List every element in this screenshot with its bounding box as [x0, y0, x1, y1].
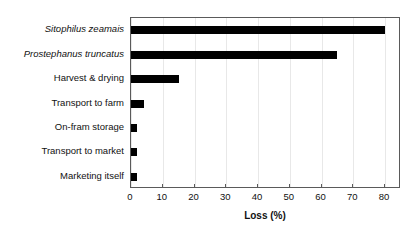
tick-mark: [162, 184, 163, 188]
bar: [131, 100, 144, 108]
tick-label: 40: [252, 191, 263, 202]
tick-label: 70: [347, 191, 358, 202]
category-label: Marketing itself: [0, 171, 124, 181]
category-label: Transport to farm: [0, 98, 124, 108]
tick-label: 60: [315, 191, 326, 202]
bar-chart: Sitophilus zeamaisProstephanus truncatus…: [0, 0, 418, 236]
x-axis-ticks: 01020304050607080: [130, 188, 400, 193]
tick-label: 10: [156, 191, 167, 202]
bar: [131, 173, 137, 181]
tick-mark: [130, 184, 131, 188]
bar-series: [131, 18, 399, 187]
plot-area: [130, 17, 400, 188]
tick-mark: [194, 184, 195, 188]
category-label: Transport to market: [0, 146, 124, 156]
category-label: On-fram storage: [0, 122, 124, 132]
category-axis-labels: Sitophilus zeamaisProstephanus truncatus…: [0, 17, 128, 188]
tick-label: 50: [284, 191, 295, 202]
category-label: Prostephanus truncatus: [0, 49, 124, 59]
tick-mark: [225, 184, 226, 188]
tick-label: 30: [220, 191, 231, 202]
tick-mark: [384, 184, 385, 188]
tick-label: 80: [379, 191, 390, 202]
category-label: Harvest & drying: [0, 73, 124, 83]
bar: [131, 124, 137, 132]
tick-label: 20: [188, 191, 199, 202]
category-label: Sitophilus zeamais: [0, 24, 124, 34]
bar: [131, 148, 137, 156]
tick-mark: [257, 184, 258, 188]
tick-label: 0: [127, 191, 132, 202]
bar: [131, 51, 337, 59]
tick-mark: [352, 184, 353, 188]
bar: [131, 26, 385, 34]
x-axis-title: Loss (%): [130, 210, 400, 221]
bar: [131, 75, 179, 83]
tick-mark: [289, 184, 290, 188]
tick-mark: [321, 184, 322, 188]
